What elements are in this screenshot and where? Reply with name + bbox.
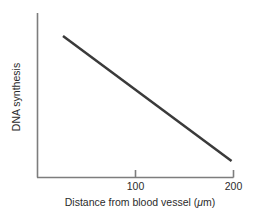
x-tick-label-200: 200: [225, 180, 243, 192]
x-axis-title-prefix: Distance from blood vessel (: [65, 196, 198, 208]
x-axis-title: Distance from blood vessel (μm): [65, 196, 216, 208]
y-axis-title: DNA synthesis: [10, 63, 22, 131]
line-chart-svg: 100 200 DNA synthesis Distance from bloo…: [0, 0, 259, 213]
x-tick-label-100: 100: [127, 180, 145, 192]
x-axis-title-suffix: m): [203, 196, 215, 208]
chart-figure: 100 200 DNA synthesis Distance from bloo…: [0, 0, 259, 213]
